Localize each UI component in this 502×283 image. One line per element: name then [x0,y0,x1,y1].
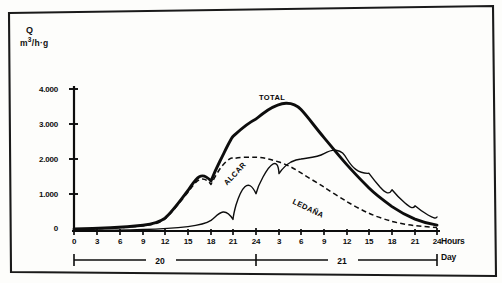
y-axis-title: Q [26,26,33,35]
y-tick-label-0: 0 [24,224,58,233]
y-tick-label-3000: 3.000 [24,120,58,129]
x-tick-label-12: 12 [338,237,356,246]
curve-label-total: TOTAL [259,93,285,102]
x-tick-label-7: 21 [224,237,242,246]
x-tick-label-4: 12 [156,237,174,246]
x-tick-label-0: 0 [65,237,83,246]
x-axis-caption-hours: Hours [441,236,465,246]
x-tick-label-10: 6 [292,237,310,246]
y-axis-unit-tail: /h·g [32,38,49,48]
y-tick-label-4000: 4.000 [24,85,58,94]
y-tick-label-2000: 2.000 [24,155,58,164]
day-band-label-20: 20 [147,256,173,266]
x-tick-label-14: 18 [383,237,401,246]
y-tick-label-1000: 1.000 [24,190,58,199]
y-axis-unit: m3/h·g [20,37,49,48]
x-tick-label-1: 3 [88,237,106,246]
x-tick-label-2: 6 [111,237,129,246]
x-tick-label-15: 21 [406,237,424,246]
x-axis-caption-day: Day [441,252,456,262]
x-tick-label-9: 3 [270,237,288,246]
y-axis-unit-base: m [20,38,28,48]
curve-total [74,103,437,229]
x-tick-label-11: 9 [315,237,333,246]
x-tick-label-5: 15 [179,237,197,246]
x-tick-label-13: 15 [360,237,378,246]
x-tick-label-3: 9 [134,237,152,246]
figure-container: Q m3/h·g 4.000 3.000 2.000 1.000 0 0 3 6… [0,0,502,283]
x-tick-label-8: 24 [247,237,265,246]
curve-alcar [74,150,437,231]
x-tick-label-6: 18 [202,237,220,246]
day-band-label-21: 21 [329,256,355,266]
